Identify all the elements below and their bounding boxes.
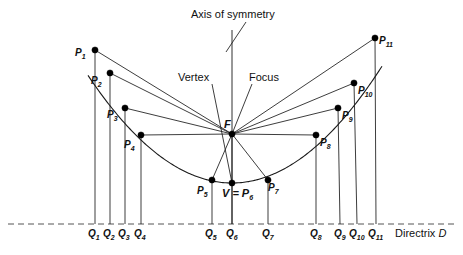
- annotation-directrix: Directrix D: [395, 228, 446, 239]
- point-dot-P11[interactable]: [372, 35, 378, 41]
- focal-radius-P4: [141, 134, 232, 135]
- focal-radius-P7: [232, 134, 268, 180]
- point-label-P7: P7: [268, 183, 279, 195]
- point-label-P8: P8: [320, 138, 331, 150]
- annotation-vertex: Vertex: [178, 72, 209, 83]
- vertex-label: V = P6: [222, 188, 253, 201]
- drop-line-P11-to-Q11: [375, 38, 376, 224]
- focal-radius-P5: [212, 134, 232, 180]
- point-dot-P10[interactable]: [351, 80, 357, 86]
- directrix-foot-label-Q6: Q6: [226, 229, 238, 241]
- diagram-canvas: [0, 0, 463, 255]
- annotation-focus: Focus: [249, 72, 279, 83]
- focal-radius-P8: [232, 134, 316, 135]
- parabola-diagram: P1P2P3P4P5P7P8P9P10P11V = P6FQ1Q2Q3Q4Q5Q…: [0, 0, 463, 255]
- point-dot-P1[interactable]: [92, 47, 98, 53]
- point-label-P3: P3: [107, 110, 118, 122]
- annotation-axis-of-symmetry: Axis of symmetry: [191, 9, 275, 20]
- directrix-foot-label-Q10: Q10: [349, 229, 365, 241]
- point-dot-P3[interactable]: [122, 105, 128, 111]
- focus-label: F: [224, 119, 231, 130]
- point-dot-P8[interactable]: [313, 132, 319, 138]
- directrix-foot-label-Q1: Q1: [88, 229, 100, 241]
- point-label-P2: P2: [91, 76, 102, 88]
- point-label-P10: P10: [358, 86, 372, 98]
- directrix-foot-label-Q2: Q2: [103, 229, 115, 241]
- point-dot-P5[interactable]: [209, 177, 215, 183]
- point-label-P1: P1: [75, 48, 86, 60]
- point-dot-P9[interactable]: [335, 105, 341, 111]
- directrix-foot-label-Q7: Q7: [262, 229, 274, 241]
- point-dot-P6[interactable]: [229, 180, 235, 186]
- directrix-foot-label-Q5: Q5: [205, 229, 217, 241]
- leader-axis-of-symmetry: [226, 22, 246, 52]
- point-label-P4: P4: [124, 140, 135, 152]
- directrix-foot-label-Q4: Q4: [134, 229, 146, 241]
- directrix-foot-label-Q11: Q11: [368, 229, 383, 241]
- point-label-P11: P11: [379, 36, 393, 48]
- point-dot-P2[interactable]: [107, 70, 113, 76]
- point-dot-P4[interactable]: [138, 132, 144, 138]
- point-label-P9: P9: [342, 111, 353, 123]
- point-label-P5: P5: [197, 186, 208, 198]
- directrix-foot-label-Q9: Q9: [334, 229, 346, 241]
- directrix-foot-label-Q3: Q3: [118, 229, 130, 241]
- focal-radius-P3: [125, 108, 232, 134]
- point-dot-focus[interactable]: [229, 131, 235, 137]
- focal-radius-P2: [110, 73, 232, 134]
- drop-line-P9-to-Q9: [338, 108, 340, 224]
- directrix-foot-label-Q8: Q8: [310, 229, 322, 241]
